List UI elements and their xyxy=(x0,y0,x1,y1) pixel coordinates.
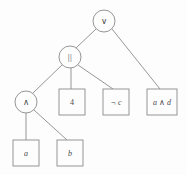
leaf-a-label: a xyxy=(24,149,28,158)
and-circle-label: ∧ xyxy=(23,97,29,107)
node-or-bars[interactable]: || xyxy=(59,46,81,68)
node-and-circle[interactable]: ∧ xyxy=(15,91,37,113)
edge-or-bars-to-and-circle xyxy=(33,65,62,93)
node-not-c[interactable]: ¬ c xyxy=(103,89,129,115)
tree-canvas: ∨ || ∧ 4 ¬ c a ∧ d a b xyxy=(0,0,187,175)
node-leaf-b[interactable]: b xyxy=(57,140,83,166)
node-root[interactable]: ∨ xyxy=(93,10,115,32)
node-leaf-a[interactable]: a xyxy=(13,140,39,166)
or-bars-label: || xyxy=(68,52,73,62)
edge-root-to-a-and-d xyxy=(112,29,160,89)
four-label: 4 xyxy=(70,98,74,107)
a-and-d-label: a ∧ d xyxy=(153,98,172,107)
leaf-b-label: b xyxy=(68,149,72,158)
edge-root-to-or-bars xyxy=(76,29,96,48)
root-label: ∨ xyxy=(101,16,107,26)
expression-tree-figure: ∨ || ∧ 4 ¬ c a ∧ d a b xyxy=(0,0,187,175)
node-a-and-d[interactable]: a ∧ d xyxy=(147,89,177,115)
node-four[interactable]: 4 xyxy=(59,89,85,115)
not-c-label: ¬ c xyxy=(111,98,122,107)
edge-or-bars-to-not-c xyxy=(78,65,113,89)
edge-group xyxy=(26,29,160,140)
